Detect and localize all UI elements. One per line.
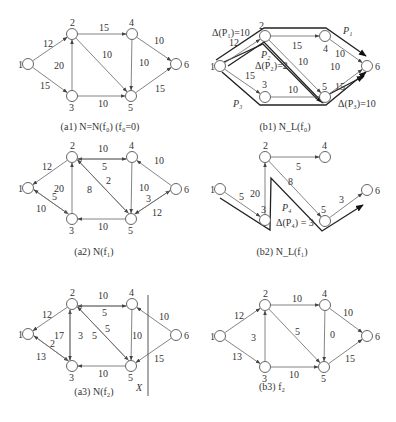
nodes-layer bbox=[23, 29, 373, 373]
node-5 bbox=[126, 91, 137, 102]
edge-capacity-label: 10 bbox=[139, 182, 149, 193]
edge-capacity-label: 10 bbox=[289, 369, 299, 380]
node-label: 5 bbox=[128, 225, 133, 236]
figure-canvas: 121520151010101015123456(a1) N=N(f₀) (f₀… bbox=[0, 0, 396, 422]
node-1 bbox=[23, 183, 34, 194]
node-1 bbox=[215, 331, 226, 342]
node-4 bbox=[320, 152, 331, 163]
edge-capacity-label: 10 bbox=[343, 307, 353, 318]
node-label: 6 bbox=[375, 331, 380, 342]
node-label: 6 bbox=[184, 184, 189, 195]
edge-capacity-label: 15 bbox=[245, 70, 255, 81]
node-label: 5 bbox=[128, 102, 133, 113]
node-6 bbox=[171, 59, 182, 70]
node-label: 3 bbox=[69, 225, 74, 236]
node-label: 4 bbox=[322, 140, 327, 151]
edge-capacity-label: 13 bbox=[36, 351, 46, 362]
path-annotation: P₁ bbox=[342, 25, 353, 36]
edge-capacity-label: 5 bbox=[295, 326, 300, 337]
node-4 bbox=[127, 152, 138, 163]
node-label: 4 bbox=[129, 287, 134, 298]
node-5 bbox=[319, 362, 330, 373]
node-label: 5 bbox=[322, 81, 327, 92]
edge-capacity-label: 10 bbox=[98, 368, 108, 379]
node-label: 2 bbox=[70, 287, 75, 298]
edge-capacity-label: 5 bbox=[239, 191, 244, 202]
panel-caption-a2: (a2) N(f₁) bbox=[74, 246, 113, 258]
edge-2-to-5 bbox=[269, 161, 321, 217]
node-2 bbox=[67, 29, 78, 40]
node-3 bbox=[67, 91, 78, 102]
node-5 bbox=[126, 214, 137, 225]
edge-capacity-label: 15 bbox=[155, 83, 165, 94]
edge-capacity-label: 10 bbox=[36, 203, 46, 214]
path-annotation: 10 bbox=[330, 61, 340, 72]
path-annotation: Δ(P₄) = 3 bbox=[276, 217, 314, 229]
node-3 bbox=[260, 215, 271, 226]
node-label: 6 bbox=[184, 330, 189, 341]
node-3 bbox=[260, 362, 271, 373]
node-2 bbox=[67, 299, 78, 310]
edge-capacity-label: 5 bbox=[102, 161, 107, 172]
edge-capacity-label: 12 bbox=[234, 310, 244, 321]
node-label: 2 bbox=[263, 288, 268, 299]
edges-layer bbox=[32, 34, 362, 396]
path-annotation: P₄ bbox=[281, 202, 292, 213]
edge-capacity-label: 3 bbox=[339, 194, 344, 205]
edge-2-to-5 bbox=[76, 38, 127, 92]
node-label: 4 bbox=[323, 43, 328, 54]
edge-capacity-label: 5 bbox=[296, 161, 301, 172]
edge-capacity-label: 10 bbox=[298, 56, 308, 67]
node-4 bbox=[320, 31, 331, 42]
edge-capacity-label: 10 bbox=[98, 143, 108, 154]
node-label: 3 bbox=[261, 204, 266, 215]
node-label: 2 bbox=[259, 20, 264, 31]
node-label: 6 bbox=[375, 185, 380, 196]
node-6 bbox=[171, 330, 182, 341]
node-4 bbox=[127, 29, 138, 40]
edge-capacity-label: 0 bbox=[330, 329, 335, 340]
node-6 bbox=[362, 61, 373, 72]
edge-capacity-label: 15 bbox=[345, 353, 355, 364]
node-label: 1 bbox=[18, 329, 23, 340]
node-label: 4 bbox=[129, 140, 134, 151]
node-label: 1 bbox=[18, 59, 23, 70]
node-2 bbox=[260, 152, 271, 163]
node-label: 2 bbox=[70, 17, 75, 28]
path-annotation: Δ(P₃)=10 bbox=[338, 98, 376, 110]
edge-capacity-label: 15 bbox=[99, 22, 109, 33]
panel-caption-a1: (a1) N=N(f₀) (f₀=0) bbox=[61, 121, 140, 133]
edge-capacity-label: 12 bbox=[43, 38, 53, 49]
edge-capacity-label: 10 bbox=[102, 49, 112, 60]
path-annotation: Δ(P₁)=10 bbox=[212, 27, 250, 39]
node-5 bbox=[320, 216, 331, 227]
edge-capacity-label: 5 bbox=[102, 307, 107, 318]
path-annotation: P₂ bbox=[260, 49, 271, 60]
edge-capacity-label: 15 bbox=[154, 353, 164, 364]
edge-capacity-label: 5 bbox=[105, 323, 110, 334]
edge-capacity-label: 10 bbox=[98, 221, 108, 232]
panel-b2 bbox=[225, 157, 363, 218]
node-1 bbox=[23, 59, 34, 70]
node-3 bbox=[260, 92, 271, 103]
node-label: 2 bbox=[263, 140, 268, 151]
edge-capacity-label: 12 bbox=[42, 309, 52, 320]
edge-5-to-6 bbox=[135, 67, 171, 92]
edge-capacity-label: 10 bbox=[335, 48, 345, 59]
path-annotation: Δ(P₂)=2 bbox=[255, 60, 288, 72]
edge-capacity-label: 3 bbox=[78, 330, 83, 341]
edge-capacity-label: 3 bbox=[251, 332, 256, 343]
node-2 bbox=[260, 300, 271, 311]
node-6 bbox=[171, 184, 182, 195]
path-annotation: P₃ bbox=[232, 98, 243, 109]
edge-capacity-label: 8 bbox=[288, 176, 293, 187]
edge-capacity-label: 15 bbox=[292, 40, 302, 51]
edge-4-to-5 bbox=[131, 162, 132, 213]
edge-capacity-label: 10 bbox=[288, 84, 298, 95]
node-label: 1 bbox=[210, 184, 215, 195]
edge-capacity-label: 13 bbox=[232, 351, 242, 362]
node-label: 3 bbox=[69, 102, 74, 113]
edge-capacity-label: 20 bbox=[250, 188, 260, 199]
node-label: 3 bbox=[262, 79, 267, 90]
cut-label: X bbox=[135, 382, 143, 393]
